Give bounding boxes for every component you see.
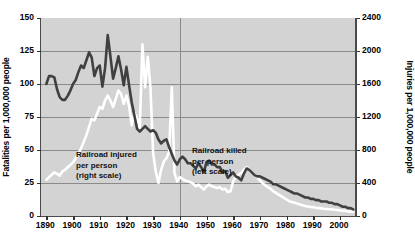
y-axis-right-tick-label: 1200 bbox=[362, 111, 396, 121]
y-tick-right bbox=[356, 84, 360, 86]
y-axis-left-tick-label: 0 bbox=[4, 210, 34, 220]
x-axis-tick-label: 1950 bbox=[191, 220, 221, 230]
killed-annotation: Railroad killedper person(left scale) bbox=[192, 146, 247, 178]
x-axis-tick-label: 1890 bbox=[30, 220, 60, 230]
x-axis-tick-label: 1930 bbox=[137, 220, 167, 230]
x-axis-tick-label: 1960 bbox=[217, 220, 247, 230]
x-axis-tick-label: 1990 bbox=[297, 220, 327, 230]
injured-annotation: Railroad injuredper person(right scale) bbox=[76, 150, 137, 182]
y-tick-right bbox=[356, 18, 360, 20]
y-axis-left-tick-label: 150 bbox=[4, 12, 34, 22]
y-axis-left-tick-label: 125 bbox=[4, 45, 34, 55]
y-axis-right-tick-label: 2000 bbox=[362, 45, 396, 55]
y-tick-right bbox=[356, 51, 360, 53]
y-axis-right-tick-label: 2400 bbox=[362, 12, 396, 22]
y-axis-right-tick-label: 400 bbox=[362, 177, 396, 187]
x-axis-tick-label: 1900 bbox=[57, 220, 87, 230]
x-axis-tick-label: 1940 bbox=[164, 220, 194, 230]
annotation-line: (left scale) bbox=[192, 167, 247, 178]
y-axis-left-tick-label: 50 bbox=[4, 144, 34, 154]
y-axis-left-tick-label: 75 bbox=[4, 111, 34, 121]
series-lines bbox=[41, 18, 356, 216]
y-axis-left-tick-label: 25 bbox=[4, 177, 34, 187]
x-axis-tick-label: 2000 bbox=[324, 220, 354, 230]
x-axis-tick-label: 1920 bbox=[110, 220, 140, 230]
y-axis-right-tick-label: 0 bbox=[362, 210, 396, 220]
x-axis-tick-label: 1980 bbox=[271, 220, 301, 230]
y-tick-right bbox=[356, 117, 360, 119]
x-axis-tick-label: 1910 bbox=[84, 220, 114, 230]
line-railroad-killed bbox=[46, 35, 353, 209]
annotation-line: Railroad killed bbox=[192, 146, 247, 157]
y-tick-right bbox=[356, 150, 360, 152]
annotation-line: (right scale) bbox=[76, 171, 137, 182]
plot-area bbox=[40, 18, 356, 217]
annotation-line: per person bbox=[76, 161, 137, 172]
x-axis-tick-label: 1970 bbox=[244, 220, 274, 230]
y-tick-right bbox=[356, 183, 360, 185]
plot-right-border bbox=[355, 18, 357, 217]
y-axis-right-title: Injuries per 1,000,000 people bbox=[405, 27, 415, 207]
y-axis-left-tick-label: 100 bbox=[4, 78, 34, 88]
annotation-line: per person bbox=[192, 157, 247, 168]
y-tick-right bbox=[356, 216, 360, 218]
y-axis-right-tick-label: 1600 bbox=[362, 78, 396, 88]
annotation-line: Railroad injured bbox=[76, 150, 137, 161]
y-axis-right-tick-label: 800 bbox=[362, 144, 396, 154]
